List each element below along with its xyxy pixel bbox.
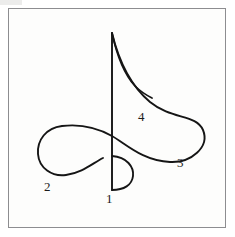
curve-label-4: 4 [138,110,145,123]
main-looping-curve [38,33,205,175]
inner-cusp-branch [112,33,152,98]
curve-label-3: 3 [177,156,184,169]
bottom-semicircular-hook [112,156,133,190]
curve-label-2: 2 [44,180,51,193]
curve-label-1: 1 [106,192,113,205]
curve-drawing [0,0,235,237]
figure-container: 1 2 3 4 [0,0,235,237]
